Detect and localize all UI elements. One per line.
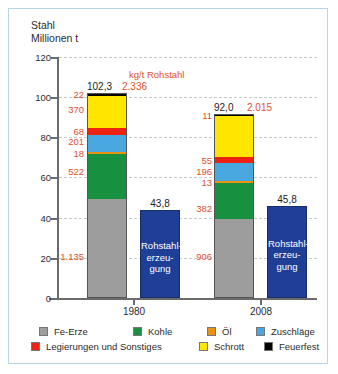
kgt-schrott-1980: 370 [49, 104, 84, 115]
output-value-2008: 45,8 [267, 194, 307, 205]
axis-title-line2: Millionen t [31, 32, 78, 44]
y-tick-40 [51, 218, 58, 220]
total-kgt-1980: 2.336 [122, 81, 147, 92]
segment-legierungen-1980[interactable] [87, 128, 127, 135]
kgt-kohle-2008: 382 [177, 203, 212, 214]
x-tick-2008 [260, 299, 262, 305]
total-mt-2008: 92,0 [214, 102, 233, 113]
legend-label-schrott: Schrott [214, 341, 244, 352]
output-caption-line3: gung [268, 261, 306, 273]
axis-title-line1: Stahl [31, 19, 55, 31]
segment-schrott-2008[interactable] [214, 116, 254, 157]
legend-label-zuschlaege: Zuschläge [271, 326, 315, 337]
legend-row-1: Fe-Erze Kohle Öl Zuschläge [31, 326, 313, 341]
gridline-120 [59, 57, 317, 58]
chart-legend: Fe-Erze Kohle Öl Zuschläge Le [31, 326, 313, 356]
kgt-legierungen-2008: 55 [181, 155, 212, 166]
legend-swatch-legierungen-icon [31, 342, 40, 351]
input-bar-1980[interactable] [87, 93, 127, 298]
legend-label-feuerfest: Feuerfest [279, 341, 319, 352]
y-tick-0 [51, 298, 58, 300]
legend-item-feerze[interactable]: Fe-Erze [39, 326, 88, 337]
kgt-kohle-1980: 522 [49, 166, 84, 177]
segment-kohle-2008[interactable] [214, 183, 254, 219]
segment-feerze-2008[interactable] [214, 219, 254, 298]
segment-zuschlaege-2008[interactable] [214, 163, 254, 181]
x-label-1980: 1980 [107, 306, 161, 317]
legend-item-kohle[interactable]: Kohle [133, 326, 172, 337]
kgt-oel-2008: 13 [181, 177, 212, 188]
legend-swatch-schrott-icon [199, 342, 208, 351]
kgt-feuerfest-1980: 22 [53, 89, 84, 100]
legend-item-legierungen[interactable]: Legierungen und Sonstiges [31, 341, 162, 352]
y-tick-120 [51, 57, 58, 59]
segment-kohle-1980[interactable] [87, 154, 127, 199]
legend-row-2: Legierungen und Sonstiges Schrott Feuerf… [31, 341, 313, 356]
legend-label-legierungen: Legierungen und Sonstiges [46, 341, 162, 352]
y-label-60: 60 [23, 172, 51, 183]
output-bar-2008-caption: Rohstahl- erzeu- gung [268, 238, 306, 273]
y-label-120: 120 [23, 52, 51, 63]
legend-swatch-zuschlaege-icon [256, 327, 265, 336]
output-value-1980: 43,8 [140, 198, 180, 209]
kgt-zuschlaege-2008: 196 [177, 166, 212, 177]
legend-swatch-feerze-icon [39, 327, 48, 336]
legend-swatch-kohle-icon [133, 327, 142, 336]
y-label-100: 100 [23, 92, 51, 103]
x-axis-line [49, 298, 317, 300]
y-tick-60 [51, 177, 58, 179]
legend-item-zuschlaege[interactable]: Zuschläge [256, 326, 315, 337]
kgt-oel-1980: 18 [53, 148, 84, 159]
output-caption-line2: erzeu- [268, 249, 306, 261]
kgt-feerze-1980: 1.135 [43, 251, 84, 262]
y-label-80: 80 [23, 132, 51, 143]
kgt-feerze-2008: 906 [173, 251, 212, 262]
x-tick-1980 [133, 299, 135, 305]
segment-zuschlaege-1980[interactable] [87, 135, 127, 152]
segment-feerze-1980[interactable] [87, 199, 127, 298]
y-label-0: 0 [23, 293, 51, 304]
chart-plot-area: Stahl Millionen t 120 100 80 60 40 20 0 … [9, 9, 327, 363]
legend-item-feuerfest[interactable]: Feuerfest [264, 341, 319, 352]
legend-label-feerze: Fe-Erze [54, 326, 88, 337]
output-caption-line3: gung [141, 263, 179, 275]
total-kgt-2008: 2.015 [247, 102, 272, 113]
kgt-unit-annotation: kg/t Rohstahl [129, 69, 184, 80]
x-label-2008: 2008 [234, 306, 288, 317]
input-bar-2008[interactable] [214, 114, 254, 298]
output-caption-line1: Rohstahl- [141, 240, 179, 252]
legend-label-oel: Öl [222, 326, 232, 337]
legend-item-oel[interactable]: Öl [207, 326, 232, 337]
kgt-zuschlaege-1980: 201 [49, 136, 84, 147]
segment-schrott-1980[interactable] [87, 96, 127, 128]
legend-swatch-feuerfest-icon [264, 342, 273, 351]
legend-swatch-oel-icon [207, 327, 216, 336]
y-label-40: 40 [23, 213, 51, 224]
chart-frame: Stahl Millionen t 120 100 80 60 40 20 0 … [8, 8, 328, 364]
legend-label-kohle: Kohle [148, 326, 172, 337]
output-bar-2008[interactable]: Rohstahl- erzeu- gung [267, 206, 307, 298]
legend-item-schrott[interactable]: Schrott [199, 341, 244, 352]
total-mt-1980: 102,3 [87, 81, 112, 92]
output-caption-line1: Rohstahl- [268, 238, 306, 250]
kgt-feuerfest-2008: 11 [181, 110, 212, 121]
